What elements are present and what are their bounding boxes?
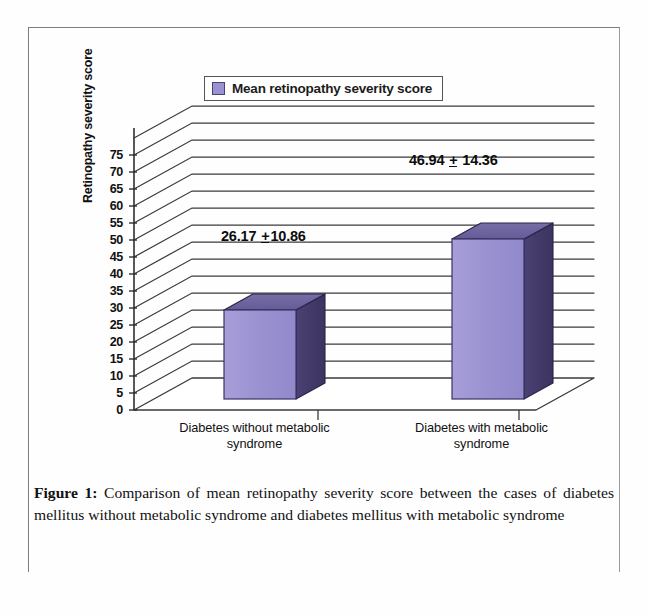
bar-column-2[interactable] (452, 223, 553, 399)
x-category-label-1: Diabetes without metabolic syndrome (147, 420, 362, 453)
x-axis-category-ticks (318, 410, 519, 420)
chart-legend: Mean retinopathy severity score (204, 76, 443, 101)
x-category-label-1-line1: Diabetes without metabolic (179, 420, 329, 435)
x-category-label-2: Diabetes with metabolic syndrome (374, 420, 589, 453)
data-label-1-mean: 26.17 (221, 228, 256, 244)
x-category-label-2-line1: Diabetes with metabolic (415, 420, 548, 435)
data-label-bar-2: 46.94 + 14.36 (409, 152, 498, 168)
data-label-2-sd: 14.36 (462, 152, 497, 168)
data-label-1-plusminus: + (260, 228, 270, 244)
x-category-label-2-line2: syndrome (454, 436, 509, 451)
y-tick-label-45: 45 (89, 250, 123, 264)
y-tick-label-5: 5 (89, 386, 123, 400)
data-label-1-sd: 10.86 (270, 228, 305, 244)
y-tick-label-20: 20 (89, 335, 123, 349)
figure-caption-label: Figure 1: (34, 484, 97, 501)
y-tick-label-70: 70 (89, 165, 123, 179)
data-label-2-plusminus: + (448, 152, 458, 168)
y-tick-label-65: 65 (89, 182, 123, 196)
x-category-label-1-line2: syndrome (227, 436, 282, 451)
data-label-bar-1: 26.17 +10.86 (221, 228, 306, 244)
y-tick-label-0: 0 (89, 403, 123, 417)
legend-color-swatch-icon (212, 82, 225, 95)
y-tick-label-55: 55 (89, 216, 123, 230)
figure-caption: Figure 1: Comparison of mean retinopathy… (34, 482, 614, 526)
bar-column-1[interactable] (224, 294, 325, 399)
y-axis-title-text: Retinopathy severity score (81, 48, 95, 203)
y-tick-label-10: 10 (89, 369, 123, 383)
y-tick-label-30: 30 (89, 301, 123, 315)
y-tick-label-40: 40 (89, 267, 123, 281)
y-tick-label-60: 60 (89, 199, 123, 213)
chart-panel: Mean retinopathy severity score Retinopa… (29, 28, 619, 468)
y-tick-label-75: 75 (89, 148, 123, 162)
data-label-2-mean: 46.94 (409, 152, 444, 168)
figure-page: Mean retinopathy severity score Retinopa… (0, 0, 647, 615)
legend-label: Mean retinopathy severity score (232, 81, 432, 96)
figure-caption-text: Comparison of mean retinopathy severity … (34, 484, 614, 523)
y-axis-ticks (129, 155, 137, 410)
y-tick-label-50: 50 (89, 233, 123, 247)
y-tick-label-35: 35 (89, 284, 123, 298)
y-tick-label-25: 25 (89, 318, 123, 332)
y-tick-label-15: 15 (89, 352, 123, 366)
